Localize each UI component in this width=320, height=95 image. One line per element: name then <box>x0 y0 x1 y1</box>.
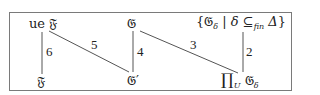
product-symbol: 𝔊 <box>240 73 253 88</box>
node-ue-f: ue 𝔉 <box>29 17 57 30</box>
edge-3 <box>140 31 238 73</box>
node-ue-f-prefix: ue <box>29 16 45 31</box>
set-relation-subscript: fin <box>254 22 265 31</box>
edge-5 <box>49 31 129 72</box>
node-set-g: {𝔊δ | δ ⊆fin Δ} <box>196 15 286 31</box>
node-g-prime-symbol: 𝔊′ <box>127 73 139 88</box>
set-close-brace: } <box>278 14 286 29</box>
set-relation: ⊆ <box>239 14 254 29</box>
edge-label-5: 5 <box>91 38 98 51</box>
edge-label-3: 3 <box>190 38 197 51</box>
edge-label-2: 2 <box>246 45 253 58</box>
node-g-prime: 𝔊′ <box>127 74 139 87</box>
edge-label-4: 4 <box>137 45 144 58</box>
product-operator: ∏ <box>221 70 234 89</box>
set-separator: | <box>218 14 231 29</box>
node-g-symbol: 𝔊 <box>127 16 136 31</box>
set-variable: δ <box>231 14 239 29</box>
set-symbol: 𝔊 <box>204 14 213 29</box>
node-f: 𝔉 <box>37 75 45 88</box>
node-prod: ∏U 𝔊δ <box>221 72 258 90</box>
edge-label-6: 6 <box>46 45 53 58</box>
set-delta: Δ <box>264 14 278 29</box>
product-symbol-subscript: δ <box>254 81 259 90</box>
node-ue-f-symbol: 𝔉 <box>49 16 57 31</box>
node-g: 𝔊 <box>127 17 136 30</box>
node-f-symbol: 𝔉 <box>37 74 45 89</box>
